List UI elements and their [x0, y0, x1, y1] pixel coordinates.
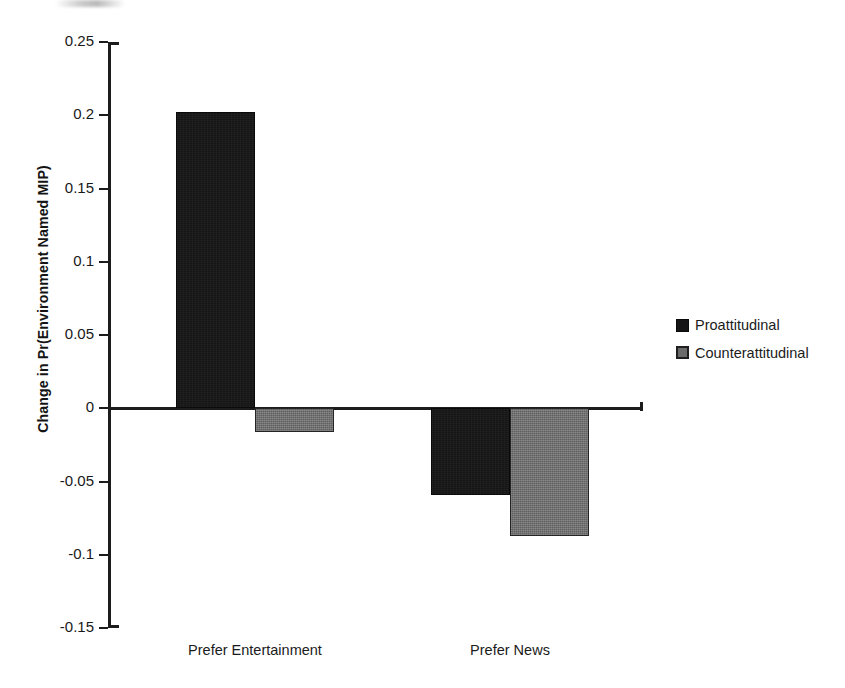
- y-tick-label: 0.05: [65, 325, 94, 342]
- plot-area: [108, 42, 643, 628]
- bar-proattitudinal: [431, 408, 510, 494]
- y-tick: [99, 114, 108, 116]
- gray-square-icon: [676, 346, 689, 359]
- bar-proattitudinal: [176, 112, 255, 408]
- y-tick-label: 0.15: [65, 179, 94, 196]
- y-tick-label: -0.05: [60, 472, 94, 489]
- y-tick: [99, 261, 108, 263]
- y-axis-line: [108, 42, 111, 628]
- y-tick-label: 0.25: [65, 32, 94, 49]
- y-tick-label: -0.15: [60, 618, 94, 635]
- y-tick: [99, 481, 108, 483]
- legend-label: Proattitudinal: [695, 318, 780, 333]
- legend: Proattitudinal Counterattitudinal: [676, 318, 809, 373]
- x-category-label: Prefer News: [370, 642, 650, 658]
- y-tick: [99, 627, 108, 629]
- y-axis-title: Change in Pr(Environment Named MIP): [35, 149, 51, 449]
- legend-item-counterattitudinal[interactable]: Counterattitudinal: [676, 346, 809, 361]
- y-tick: [99, 407, 108, 409]
- y-tick: [99, 188, 108, 190]
- y-tick-label: 0.1: [73, 252, 94, 269]
- y-tick-label: -0.1: [68, 545, 94, 562]
- legend-label: Counterattitudinal: [695, 346, 809, 361]
- bar-counterattitudinal: [510, 408, 589, 535]
- y-tick-label: 0: [86, 398, 94, 415]
- y-tick: [99, 41, 108, 43]
- bar-counterattitudinal: [255, 408, 334, 431]
- zero-line-end-tick: [640, 402, 643, 411]
- y-tick-label: 0.2: [73, 105, 94, 122]
- y-axis-top-cap: [108, 42, 119, 45]
- y-axis-bottom-cap: [108, 625, 119, 628]
- bar-chart: Change in Pr(Environment Named MIP) 0.25…: [0, 0, 845, 688]
- black-square-icon: [676, 319, 689, 332]
- scan-artifact: [55, 0, 125, 7]
- y-tick: [99, 334, 108, 336]
- legend-item-proattitudinal[interactable]: Proattitudinal: [676, 318, 809, 333]
- x-category-label: Prefer Entertainment: [115, 642, 395, 658]
- y-tick: [99, 554, 108, 556]
